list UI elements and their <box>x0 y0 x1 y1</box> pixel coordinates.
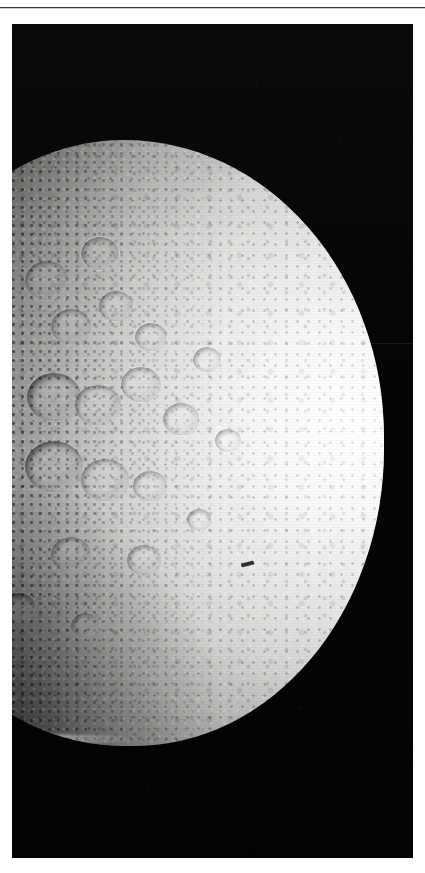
crater-right-lower <box>186 508 212 531</box>
crater-lower-right <box>126 544 162 576</box>
crater-lower-mid <box>50 536 92 573</box>
crater-upper-right <box>80 236 120 271</box>
crater-mid-upper-a <box>50 308 92 345</box>
crater-right-upper <box>192 346 222 373</box>
crater-central-d <box>162 402 200 436</box>
crater-central-b <box>74 384 122 426</box>
crater-upper-mid <box>24 260 70 301</box>
moon-photograph <box>12 24 413 858</box>
crater-mid-upper-b <box>98 290 134 322</box>
crater-lower-central-a <box>24 440 84 493</box>
moon-disk <box>12 140 384 746</box>
crater-bottom-mid <box>70 612 100 639</box>
crater-lower-central-c <box>132 470 168 502</box>
crater-mid-upper-c <box>134 322 168 352</box>
crater-central-a <box>26 372 82 422</box>
crater-central-c <box>120 366 162 403</box>
horizontal-rule <box>0 7 425 8</box>
crater-right-mid <box>214 428 242 453</box>
crater-lower-central-b <box>80 458 130 502</box>
